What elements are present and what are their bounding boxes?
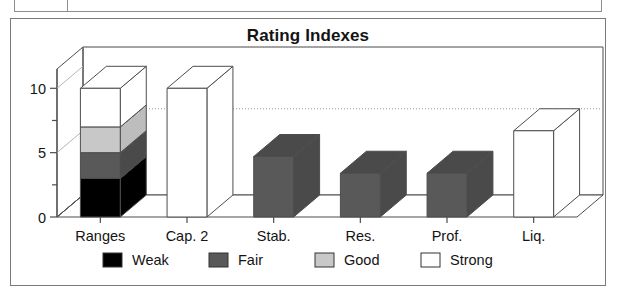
rating-indexes-3d-bar-chart: 0510RangesCap. 2Stab.Res.Prof.Liq.WeakFa… [11, 19, 607, 287]
y-tick-label-5: 5 [38, 145, 46, 161]
bar-stab-front [254, 157, 294, 217]
legend-swatch-strong [421, 253, 440, 267]
legend-label-fair: Fair [238, 252, 263, 268]
x-axis-label-cap2: Cap. 2 [166, 228, 209, 244]
bar-cap2[interactable] [167, 66, 233, 217]
bar-ranges-segment-strong-front [80, 88, 120, 127]
table-cell-divider [67, 0, 68, 11]
legend-label-good: Good [344, 252, 379, 268]
x-axis-label-ranges: Ranges [75, 228, 125, 244]
legend-swatch-fair [209, 253, 228, 267]
bar-liq-front [514, 131, 554, 217]
bar-liq[interactable] [514, 109, 580, 217]
x-axis-label-stab: Stab. [257, 228, 291, 244]
bar-ranges-segment-good-front [80, 127, 120, 153]
legend-swatch-weak [103, 253, 122, 267]
bar-cap2-side [207, 66, 233, 217]
bar-prof-front [427, 173, 467, 217]
y-tick-label-0: 0 [38, 210, 46, 226]
y-axis-depth-line-10 [57, 66, 83, 88]
legend-label-weak: Weak [132, 252, 170, 268]
x-axis-label-liq: Liq. [522, 228, 545, 244]
legend-swatch-good [315, 253, 334, 267]
bar-ranges-segment-weak-front [80, 178, 120, 217]
y-tick-label-10: 10 [30, 81, 46, 97]
x-axis-label-res: Res. [345, 228, 375, 244]
bar-ranges-segment-fair-front [80, 153, 120, 179]
clipped-table-fragment [14, 0, 602, 12]
legend-label-strong: Strong [450, 252, 493, 268]
x-axis-label-prof: Prof. [432, 228, 463, 244]
chart-left-wall [57, 47, 83, 217]
y-axis-depth-line-5 [57, 131, 83, 153]
chart-panel: Rating Indexes 0510RangesCap. 2Stab.Res.… [10, 18, 606, 286]
bar-cap2-front [167, 88, 207, 217]
bar-res-front [340, 173, 380, 217]
screenshot-root: Rating Indexes 0510RangesCap. 2Stab.Res.… [0, 0, 617, 293]
